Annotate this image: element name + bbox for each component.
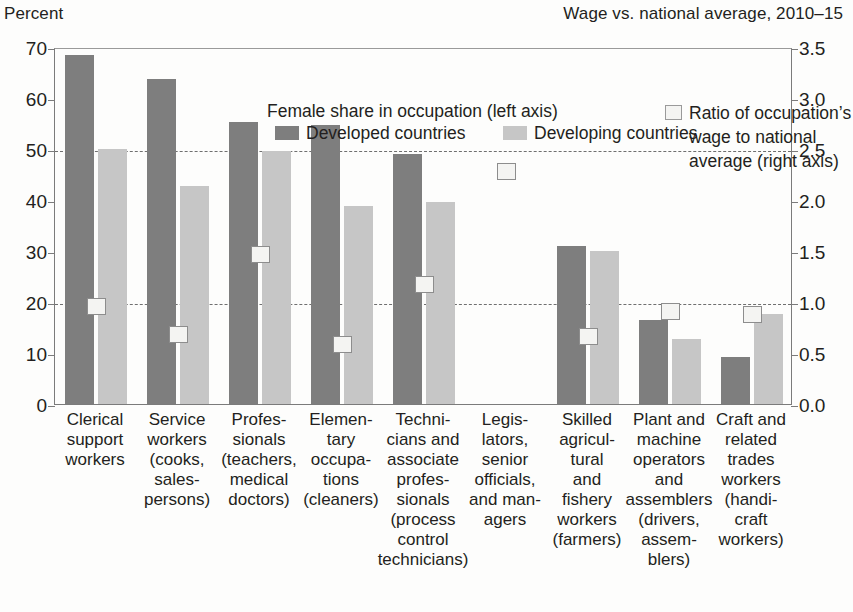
legend-item-developed: Developed countries: [275, 123, 466, 144]
bar-developed[interactable]: [639, 320, 668, 404]
legend-swatch-developed: [275, 126, 299, 140]
tick-label-left-20: 20: [3, 294, 47, 313]
bar-developing[interactable]: [426, 202, 455, 404]
x-axis-label-line: profes-: [376, 470, 470, 490]
x-axis-label-line: Plant and: [622, 410, 716, 430]
tick-left-70: [48, 49, 55, 50]
x-axis-label-line: related: [704, 430, 798, 450]
x-axis-label-line: associate: [376, 450, 470, 470]
tick-left-10: [48, 355, 55, 356]
x-axis-label: Legis-lators,seniorofficials,and man-age…: [458, 410, 552, 530]
ratio-marker[interactable]: [169, 326, 188, 343]
tick-label-right-1.0: 1.0: [799, 294, 845, 313]
x-axis-label: Skilledagricul-turalandfisheryworkers(fa…: [540, 410, 634, 550]
legend-ratio-line-1: Ratio of occupation’s: [665, 101, 851, 125]
x-axis-label-line: (process: [376, 510, 470, 530]
bar-developing[interactable]: [98, 149, 127, 404]
x-axis-label-line: occupa-: [294, 450, 388, 470]
x-axis-label-line: Profes-: [212, 410, 306, 430]
bar-developing[interactable]: [754, 314, 783, 404]
x-axis-label-line: tural: [540, 450, 634, 470]
ratio-marker[interactable]: [415, 276, 434, 293]
tick-label-left-70: 70: [3, 39, 47, 58]
x-axis-label-line: support: [48, 430, 142, 450]
bar-group[interactable]: [55, 49, 137, 404]
x-axis-label-line: Techni-: [376, 410, 470, 430]
tick-left-20: [48, 304, 55, 305]
ratio-marker[interactable]: [333, 336, 352, 353]
bar-developing[interactable]: [180, 186, 209, 404]
x-axis-label-line: workers: [48, 450, 142, 470]
x-axis-label: Plant andmachineoperatorsandassemblers(d…: [622, 410, 716, 570]
x-axis-label: Serviceworkers(cooks,sales-persons): [130, 410, 224, 510]
x-axis-label-line: machine: [622, 430, 716, 450]
tick-left-0: [48, 406, 55, 407]
ratio-marker[interactable]: [251, 246, 270, 263]
bar-group[interactable]: [137, 49, 219, 404]
x-axis-label-line: sionals: [376, 490, 470, 510]
tick-right-0.0: [791, 406, 798, 407]
x-axis-label-line: agers: [458, 510, 552, 530]
legend-label-developed: Developed countries: [306, 123, 466, 143]
tick-label-left-10: 10: [3, 345, 47, 364]
tick-label-right-3.5: 3.5: [799, 39, 845, 58]
x-axis-label-line: officials,: [458, 470, 552, 490]
legend-label-ratio-2: wage to national: [665, 125, 851, 149]
tick-label-right-0.0: 0.0: [799, 396, 845, 415]
ratio-marker[interactable]: [661, 303, 680, 320]
x-axis-label-line: Craft and: [704, 410, 798, 430]
x-axis-label-line: (cooks,: [130, 450, 224, 470]
x-axis-label-line: (farmers): [540, 530, 634, 550]
tick-left-60: [48, 100, 55, 101]
bar-developing[interactable]: [672, 339, 701, 404]
x-axis-label-line: craft: [704, 510, 798, 530]
x-axis-label-line: doctors): [212, 490, 306, 510]
x-axis-label-line: workers): [704, 530, 798, 550]
bar-developed[interactable]: [147, 79, 176, 404]
bar-developing[interactable]: [344, 206, 373, 404]
tick-label-right-2.0: 2.0: [799, 192, 845, 211]
x-axis-label-line: and: [622, 470, 716, 490]
x-axis-label-line: (cleaners): [294, 490, 388, 510]
x-axis-label-line: tary: [294, 430, 388, 450]
ratio-marker[interactable]: [579, 328, 598, 345]
x-axis-label-line: workers: [130, 430, 224, 450]
x-axis-label-line: fishery: [540, 490, 634, 510]
x-axis-label-line: (teachers,: [212, 450, 306, 470]
x-axis-label-line: Service: [130, 410, 224, 430]
ratio-marker[interactable]: [743, 306, 762, 323]
x-axis-label-line: and: [540, 470, 634, 490]
tick-label-right-0.5: 0.5: [799, 345, 845, 364]
x-axis-label-line: workers: [540, 510, 634, 530]
x-axis-label-line: senior: [458, 450, 552, 470]
x-axis-label-line: sionals: [212, 430, 306, 450]
x-axis-label-line: and man-: [458, 490, 552, 510]
x-axis-label-line: Skilled: [540, 410, 634, 430]
x-axis-label-line: technicians): [376, 550, 470, 570]
tick-label-left-60: 60: [3, 90, 47, 109]
x-axis-label-line: lators,: [458, 430, 552, 450]
legend-label-ratio-3: average (right axis): [665, 149, 851, 173]
x-axis-label-line: assem-: [622, 530, 716, 550]
x-axis-label: Craft andrelatedtradesworkers(handi-craf…: [704, 410, 798, 550]
tick-label-left-30: 30: [3, 243, 47, 262]
legend-swatch-developing: [503, 126, 527, 140]
plot-area: 0102030405060700.00.51.01.52.02.53.03.5 …: [54, 48, 792, 405]
bar-developed[interactable]: [721, 357, 750, 404]
tick-label-left-0: 0: [3, 396, 47, 415]
bar-developed[interactable]: [65, 55, 94, 404]
tick-label-right-1.5: 1.5: [799, 243, 845, 262]
ratio-marker[interactable]: [87, 298, 106, 315]
x-axis-label-line: agricul-: [540, 430, 634, 450]
x-axis-label-line: trades: [704, 450, 798, 470]
tick-label-left-50: 50: [3, 141, 47, 160]
x-axis-label-line: cians and: [376, 430, 470, 450]
x-axis-label-line: (handi-: [704, 490, 798, 510]
x-axis-label: Elemen-taryoccupa-tions(cleaners): [294, 410, 388, 510]
x-axis-label-line: Elemen-: [294, 410, 388, 430]
x-axis-label: Clericalsupportworkers: [48, 410, 142, 470]
bar-developed[interactable]: [557, 246, 586, 404]
x-axis-label-line: control: [376, 530, 470, 550]
x-axis-label-line: workers: [704, 470, 798, 490]
